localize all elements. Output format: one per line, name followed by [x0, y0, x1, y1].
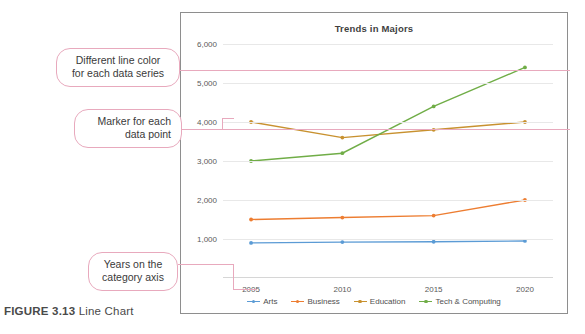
chart-frame: Trends in Majors 1,0002,0003,0004,0005,0…	[180, 12, 568, 314]
y-tick-label-2000: 2,000	[197, 196, 217, 205]
data-point-marker	[432, 105, 436, 109]
data-point-marker	[523, 66, 527, 70]
legend-item-education[interactable]: Education	[354, 297, 406, 306]
series-line-arts	[251, 241, 525, 243]
leader-marker-stub	[222, 118, 223, 130]
legend-item-arts[interactable]: Arts	[247, 297, 277, 306]
gridline-4000	[223, 122, 553, 123]
legend-label: Education	[370, 297, 406, 306]
legend-label: Tech & Computing	[435, 297, 500, 306]
legend-item-business[interactable]: Business	[291, 297, 339, 306]
y-tick-label-3000: 3,000	[197, 157, 217, 166]
leader-line-color	[180, 70, 570, 71]
data-point-marker	[340, 240, 344, 244]
legend-label: Arts	[263, 297, 277, 306]
figure-caption: FIGURE 3.13 Line Chart	[4, 305, 134, 317]
figure-number: FIGURE 3.13	[4, 305, 75, 317]
callout-marker-line2: data point	[85, 128, 171, 141]
gridline-1000	[223, 239, 553, 240]
gridline-5000	[223, 83, 553, 84]
figure-caption-text: Line Chart	[79, 305, 134, 317]
x-tick-label-2020: 2020	[516, 285, 534, 294]
legend-item-tech-computing[interactable]: Tech & Computing	[419, 297, 500, 306]
series-line-tech-computing	[251, 67, 525, 161]
chart-title: Trends in Majors	[181, 23, 567, 34]
legend-swatch-icon	[354, 301, 367, 302]
gridline-2000	[223, 200, 553, 201]
x-tick-label-2015: 2015	[425, 285, 443, 294]
y-tick-label-5000: 5,000	[197, 79, 217, 88]
data-point-marker	[340, 136, 344, 140]
callout-marker-line1: Marker for each	[85, 115, 171, 128]
callout-line-color-line1: Different line color	[67, 54, 169, 67]
legend-swatch-icon	[247, 301, 260, 302]
data-point-marker	[249, 218, 253, 222]
leader-years-h2	[233, 289, 257, 290]
data-point-marker	[249, 241, 253, 245]
leader-marker-stub2	[222, 118, 234, 119]
callout-line-color-line2: for each data series	[67, 67, 169, 80]
series-line-business	[251, 200, 525, 220]
y-tick-label-6000: 6,000	[197, 40, 217, 49]
data-point-marker	[340, 151, 344, 155]
leader-years-h	[178, 264, 234, 265]
gridline-3000	[223, 161, 553, 162]
callout-marker: Marker for each data point	[74, 109, 182, 148]
callout-years-line1: Years on the	[99, 258, 167, 271]
y-tick-label-1000: 1,000	[197, 235, 217, 244]
gridline-6000	[223, 44, 553, 45]
leader-marker	[182, 129, 570, 130]
legend-label: Business	[307, 297, 339, 306]
leader-years-v	[233, 264, 234, 290]
x-tick-label-2010: 2010	[333, 285, 351, 294]
callout-years-line2: category axis	[99, 271, 167, 284]
legend-swatch-icon	[419, 301, 432, 302]
data-point-marker	[432, 240, 436, 244]
chart-legend: ArtsBusinessEducationTech & Computing	[181, 297, 567, 306]
y-tick-label-4000: 4,000	[197, 118, 217, 127]
plot-area: 1,0002,0003,0004,0005,0006,0002005201020…	[223, 44, 553, 278]
data-point-marker	[340, 216, 344, 220]
data-point-marker	[432, 214, 436, 218]
callout-years: Years on the category axis	[88, 252, 178, 291]
legend-swatch-icon	[291, 301, 304, 302]
callout-line-color: Different line color for each data serie…	[56, 48, 180, 87]
